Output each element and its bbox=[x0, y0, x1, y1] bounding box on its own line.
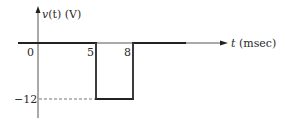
waveform-line bbox=[18, 43, 186, 99]
tick-label-0: 0 bbox=[27, 46, 34, 59]
tick-label-neg12: −12 bbox=[14, 93, 37, 106]
x-axis-label: t (msec) bbox=[231, 37, 276, 50]
waveform-diagram: v(t) (V) t (msec) 0 5 8 −12 bbox=[0, 0, 282, 128]
y-axis-unit: (V) bbox=[61, 8, 81, 21]
y-axis-arg: (t) bbox=[48, 8, 61, 21]
tick-label-5: 5 bbox=[87, 46, 94, 59]
y-axis-label: v(t) (V) bbox=[42, 8, 81, 21]
x-axis-arrow-icon bbox=[220, 41, 228, 46]
tick-label-8: 8 bbox=[124, 46, 131, 59]
x-axis-unit: (msec) bbox=[235, 37, 276, 50]
y-axis-arrow-icon bbox=[36, 6, 41, 13]
